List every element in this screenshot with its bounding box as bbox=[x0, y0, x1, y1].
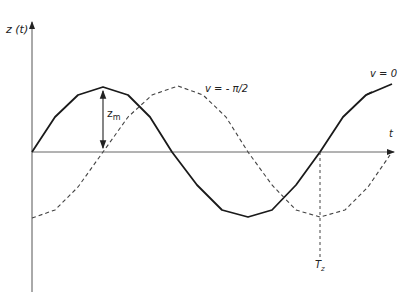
wave-diagram: z (t) t zm Tz v = 0 v = - π/2 bbox=[0, 0, 409, 295]
curve-v-0-end bbox=[366, 84, 392, 95]
curve-label-v-0: v = 0 bbox=[370, 68, 397, 79]
x-axis-label: t bbox=[389, 128, 394, 139]
y-axis-label: z (t) bbox=[5, 23, 28, 36]
amplitude-label: zm bbox=[107, 107, 121, 122]
curve-label-v-minus-pi-2: v = - π/2 bbox=[205, 83, 248, 94]
period-label: Tz bbox=[315, 259, 325, 273]
